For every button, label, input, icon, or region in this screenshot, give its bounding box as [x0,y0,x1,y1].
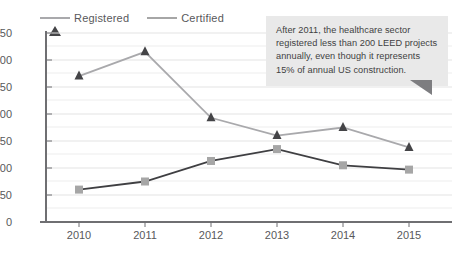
x-tick-2014: 2014 [331,229,355,241]
x-tick-2013: 2013 [265,229,289,241]
data-point-certified-2013[interactable] [273,145,281,153]
x-tick-2012: 2012 [199,229,223,241]
data-point-registered-2011[interactable] [141,46,150,55]
data-point-certified-2014[interactable] [339,161,347,169]
x-tick-2015: 2015 [397,229,421,241]
annotation-tail-icon [410,80,432,95]
data-point-certified-2011[interactable] [141,178,149,186]
annotation-line-2: registered less than 200 LEED projects [276,37,439,50]
x-tick-2011: 2011 [133,229,157,241]
annotation-line-4: 15% of annual US construction. [276,64,439,77]
data-point-registered-2014[interactable] [339,122,348,131]
data-point-certified-2015[interactable] [405,166,413,174]
annotation-line-3: annually, even though it represents [276,50,439,63]
annotation-callout: After 2011, the healthcare sector regist… [266,16,448,86]
series-certified [75,145,413,194]
x-tick-2010: 2010 [67,229,91,241]
data-point-certified-2010[interactable] [75,186,83,194]
series-line-certified [79,149,409,190]
data-point-certified-2012[interactable] [207,157,215,165]
annotation-line-1: After 2011, the healthcare sector [276,24,439,37]
leed-healthcare-line-chart: Registered Certified 350 300 250 200 150… [0,0,464,253]
